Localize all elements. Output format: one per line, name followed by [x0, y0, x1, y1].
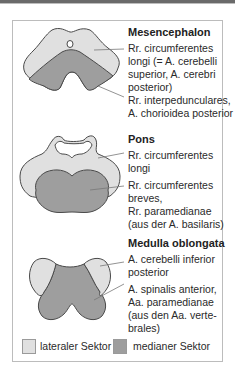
section-title-pons: Pons — [128, 133, 155, 145]
label-circumferentes-longi-mes: Rr. circumferentes longi (= A. cerebelli… — [128, 42, 217, 94]
label-line: breves, — [128, 192, 224, 205]
label-line: (aus den Aa. verte- — [128, 309, 217, 322]
medulla-section — [30, 258, 125, 319]
label-circumferentes-longi-pons: Rr. circumferentes longi — [128, 149, 213, 175]
label-circumferentes-breves: Rr. circumferentes breves, Rr. paramedia… — [128, 179, 224, 231]
label-line: A. cerebelli inferior — [128, 253, 215, 266]
label-cerebelli-inferior: A. cerebelli inferior posterior — [128, 253, 215, 279]
legend-label-median: medianer Sektor — [133, 340, 210, 352]
label-line: Aa. paramedianae — [128, 296, 217, 309]
label-line: Rr. circumferentes — [128, 149, 213, 162]
label-line: longi (= A. cerebelli — [128, 55, 217, 68]
label-line: A. chorioidea posterior — [128, 107, 233, 120]
pons-median-sector — [35, 170, 108, 213]
label-line: A. spinalis anterior, — [128, 283, 217, 296]
legend-swatch-lateral — [22, 339, 36, 354]
legend-swatch-median — [113, 339, 127, 354]
label-line: brales) — [128, 322, 217, 335]
label-line: posterior) — [128, 81, 217, 94]
label-line: superior, A. cerebri — [128, 68, 217, 81]
label-line: Rr. paramedianae — [128, 205, 224, 218]
label-spinalis-anterior: A. spinalis anterior, Aa. paramedianae (… — [128, 283, 217, 335]
section-title-medulla: Medulla oblongata — [128, 237, 225, 249]
leader-line — [98, 86, 124, 97]
pons-section — [20, 136, 124, 213]
label-line: longi — [128, 162, 213, 175]
label-line: (aus der A. basilaris) — [128, 218, 224, 231]
label-line: posterior — [128, 266, 215, 279]
aqueduct-icon — [67, 41, 73, 48]
section-title-mesencephalon: Mesencephalon — [128, 26, 211, 38]
label-line: Rr. circumferentes — [128, 42, 217, 55]
label-line: Rr. circumferentes — [128, 179, 224, 192]
mesencephalon-section — [24, 28, 124, 97]
legend-label-lateral: lateraler Sektor — [40, 340, 111, 352]
label-interpedunculares: Rr. interpedunculares, A. chorioidea pos… — [128, 94, 233, 120]
label-line: Rr. interpedunculares, — [128, 94, 233, 107]
